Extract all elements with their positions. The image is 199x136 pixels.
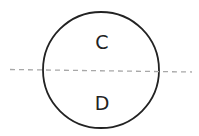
circle-diagram: C D bbox=[0, 0, 199, 136]
dashed-dividing-line bbox=[10, 70, 192, 73]
label-c: C bbox=[95, 31, 108, 53]
label-d: D bbox=[95, 92, 110, 114]
